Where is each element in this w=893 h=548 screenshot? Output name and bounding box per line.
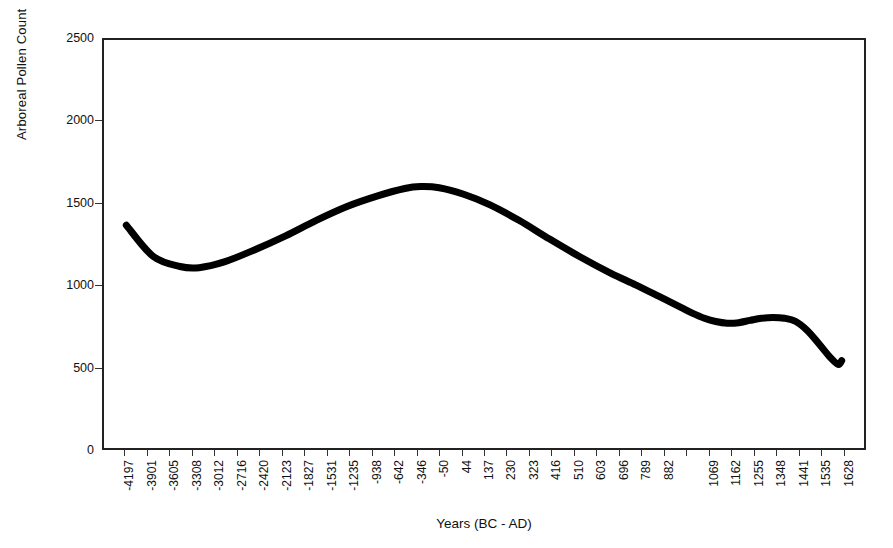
x-tick-label: 789: [639, 460, 653, 480]
x-tick-mark: [686, 450, 687, 456]
x-tick-mark: [282, 450, 283, 456]
x-tick-label: 416: [549, 460, 563, 480]
x-tick-label: -2420: [257, 460, 271, 491]
x-tick-label: -2716: [235, 460, 249, 491]
x-tick-label: 510: [572, 460, 586, 480]
x-tick-label: -1827: [302, 460, 316, 491]
y-tick-mark: [95, 120, 102, 121]
x-tick-label: 1162: [729, 460, 743, 486]
x-tick-label: 230: [504, 460, 518, 480]
arboreal-pollen-count-line: [126, 186, 841, 364]
x-tick-label: 1628: [842, 460, 856, 487]
x-tick-mark: [529, 450, 530, 456]
x-tick-mark: [394, 450, 395, 456]
x-tick-label: -642: [392, 460, 406, 484]
x-tick-mark: [169, 450, 170, 456]
x-tick-mark: [304, 450, 305, 456]
x-tick-label: 1535: [819, 460, 833, 487]
x-tick-mark: [147, 450, 148, 456]
y-tick-label: 500: [48, 361, 94, 375]
x-tick-mark: [799, 450, 800, 456]
x-tick-mark: [709, 450, 710, 456]
plot-area: [102, 38, 866, 450]
y-tick-mark: [95, 285, 102, 286]
x-tick-label: 1255: [752, 460, 766, 487]
x-tick-mark: [641, 450, 642, 456]
x-tick-mark: [731, 450, 732, 456]
x-tick-label: -3012: [212, 460, 226, 491]
x-tick-mark: [214, 450, 215, 456]
y-tick-label: 2500: [48, 31, 94, 45]
x-tick-mark: [484, 450, 485, 456]
x-tick-mark: [192, 450, 193, 456]
y-tick-label: 1000: [48, 278, 94, 292]
x-tick-label: 603: [594, 460, 608, 480]
pollen-count-line-chart: Arboreal Pollen Count -4197-3901-3605-33…: [0, 0, 893, 548]
x-tick-label: -1531: [325, 460, 339, 491]
x-tick-label: -4197: [122, 460, 136, 491]
x-tick-label: 696: [617, 460, 631, 480]
x-tick-mark: [417, 450, 418, 456]
x-tick-label: 44: [460, 460, 474, 473]
x-tick-mark: [754, 450, 755, 456]
x-tick-label: 1441: [797, 460, 811, 487]
x-tick-mark: [439, 450, 440, 456]
x-tick-mark: [664, 450, 665, 456]
x-tick-mark: [821, 450, 822, 456]
x-tick-label: 323: [527, 460, 541, 480]
y-tick-label: 0: [48, 443, 94, 457]
x-tick-mark: [574, 450, 575, 456]
y-tick-mark: [95, 203, 102, 204]
x-tick-label: -2123: [280, 460, 294, 491]
x-tick-label: 882: [662, 460, 676, 480]
x-tick-mark: [506, 450, 507, 456]
x-tick-mark: [237, 450, 238, 456]
x-tick-label: -938: [370, 460, 384, 484]
y-tick-label: 2000: [48, 113, 94, 127]
x-tick-label: -50: [437, 460, 451, 477]
x-tick-label: -3605: [167, 460, 181, 491]
x-tick-mark: [619, 450, 620, 456]
x-tick-label: -346: [415, 460, 429, 484]
x-tick-mark: [259, 450, 260, 456]
x-tick-label: 137: [482, 460, 496, 480]
x-tick-label: -3901: [145, 460, 159, 491]
x-tick-mark: [327, 450, 328, 456]
x-tick-mark: [124, 450, 125, 456]
y-tick-mark: [95, 368, 102, 369]
x-axis-title: Years (BC - AD): [102, 516, 866, 531]
x-tick-mark: [844, 450, 845, 456]
x-tick-label: -1235: [347, 460, 361, 491]
x-tick-label: 1069: [707, 460, 721, 487]
y-tick-label: 1500: [48, 196, 94, 210]
x-tick-mark: [462, 450, 463, 456]
x-tick-label: -3308: [190, 460, 204, 491]
x-tick-mark: [551, 450, 552, 456]
x-tick-mark: [372, 450, 373, 456]
x-tick-label: 1348: [774, 460, 788, 487]
series-line-svg: [104, 40, 864, 448]
x-tick-mark: [349, 450, 350, 456]
y-axis-title: Arboreal Pollen Count: [14, 0, 29, 140]
x-tick-mark: [596, 450, 597, 456]
x-tick-mark: [776, 450, 777, 456]
